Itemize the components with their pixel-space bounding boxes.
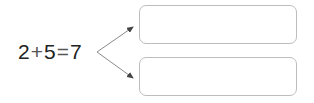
answer-box-1[interactable] [139,5,297,44]
arrow-up-icon [97,27,133,52]
answer-box-2[interactable] [139,57,297,96]
arrow-down-icon [97,52,133,78]
